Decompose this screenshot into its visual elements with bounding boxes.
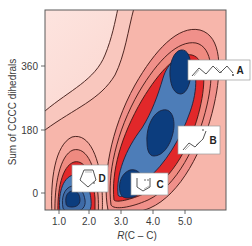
x-tick-3: 3.0 — [114, 216, 128, 227]
label-D: D — [98, 173, 105, 184]
label-A-box: A — [188, 60, 250, 80]
label-B-box: B — [178, 126, 220, 154]
label-C: C — [156, 179, 163, 190]
y-tick-180: 180 — [21, 125, 38, 136]
y-tick-360: 360 — [21, 61, 38, 72]
x-axis: 1.0 2.0 3.0 4.0 5.0 R(C – C) — [52, 210, 192, 241]
x-tick-1: 1.0 — [52, 216, 66, 227]
contour-chart: 360 180 0 Sum of CCCC dihedrals 1.0 2.0 … — [0, 0, 252, 246]
label-D-box: D — [72, 165, 108, 192]
x-axis-label: R(C – C) — [117, 230, 156, 241]
x-tick-5: 5.0 — [178, 216, 192, 227]
y-axis: 360 180 0 Sum of CCCC dihedrals — [7, 59, 45, 199]
label-A: A — [236, 65, 243, 76]
x-tick-2: 2.0 — [82, 216, 96, 227]
label-B: B — [209, 135, 216, 146]
label-C-box: C — [131, 173, 168, 195]
y-tick-0: 0 — [32, 188, 38, 199]
y-axis-label: Sum of CCCC dihedrals — [7, 59, 18, 166]
x-tick-4: 4.0 — [146, 216, 160, 227]
